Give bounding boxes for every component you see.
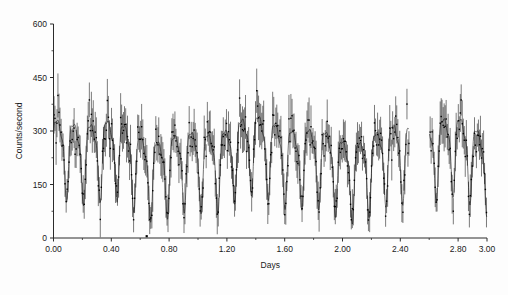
data-point	[256, 90, 257, 91]
data-point	[57, 95, 58, 96]
data-point	[290, 118, 291, 119]
data-point	[390, 133, 391, 134]
data-point	[404, 174, 405, 175]
data-point	[269, 178, 270, 179]
data-point	[282, 169, 283, 170]
data-point	[451, 181, 452, 182]
x-axis-tick-label: 1.60	[276, 244, 293, 254]
data-point	[431, 131, 432, 132]
data-point	[345, 141, 346, 142]
data-point	[301, 208, 302, 209]
data-point	[363, 149, 364, 150]
data-point	[59, 124, 60, 125]
data-point	[309, 144, 310, 145]
data-point	[385, 215, 386, 216]
data-point	[253, 148, 254, 149]
data-point	[405, 144, 406, 145]
axis-lines	[54, 24, 488, 238]
data-point	[350, 204, 351, 205]
data-point	[464, 140, 465, 141]
data-point	[142, 139, 143, 140]
data-point	[103, 148, 104, 149]
data-point	[121, 123, 122, 124]
data-point	[202, 187, 203, 188]
data-point	[380, 133, 381, 134]
data-point	[436, 199, 437, 200]
data-point-outlier	[146, 235, 148, 237]
data-point	[397, 137, 398, 138]
data-point	[395, 115, 396, 116]
data-point	[138, 132, 139, 133]
data-point	[239, 97, 240, 98]
data-point	[369, 211, 370, 212]
data-point	[265, 164, 266, 165]
data-point	[474, 133, 475, 134]
data-point	[196, 152, 197, 153]
data-point	[460, 112, 461, 113]
data-point	[218, 211, 219, 212]
data-point	[64, 183, 65, 184]
data-point	[164, 178, 165, 179]
data-point	[120, 117, 121, 118]
data-point	[155, 129, 156, 130]
data-point	[93, 120, 94, 121]
data-point	[393, 138, 394, 139]
data-point	[205, 156, 206, 157]
data-point	[258, 117, 259, 118]
data-point	[214, 146, 215, 147]
data-point	[429, 131, 430, 132]
data-point	[448, 149, 449, 150]
data-point	[249, 160, 250, 161]
data-point	[358, 146, 359, 147]
data-point	[125, 124, 126, 125]
data-point	[286, 181, 287, 182]
data-point	[147, 182, 148, 183]
data-point	[231, 166, 232, 167]
data-point	[470, 195, 471, 196]
x-axis-tick-label: 3.00	[479, 244, 496, 254]
data-point	[275, 123, 276, 124]
data-point	[56, 123, 57, 124]
y-axis-tick-label: 450	[33, 73, 47, 83]
data-point	[199, 210, 200, 211]
data-point	[192, 146, 193, 147]
data-point	[220, 164, 221, 165]
data-point	[458, 120, 459, 121]
data-point	[160, 154, 161, 155]
data-point	[110, 148, 111, 149]
data-point	[181, 170, 182, 171]
data-point	[434, 187, 435, 188]
data-point	[323, 155, 324, 156]
data-point	[158, 136, 159, 137]
data-point	[226, 123, 227, 124]
data-point	[407, 152, 408, 153]
data-point	[327, 121, 328, 122]
data-point	[169, 170, 170, 171]
data-point	[285, 203, 286, 204]
data-point	[246, 151, 247, 152]
data-point	[455, 151, 456, 152]
data-point	[375, 130, 376, 131]
data-point	[163, 161, 164, 162]
data-point	[224, 145, 225, 146]
data-point	[305, 139, 306, 140]
data-point	[320, 187, 321, 188]
data-point	[245, 116, 246, 117]
data-point	[303, 170, 304, 171]
data-point	[368, 219, 369, 220]
data-point	[187, 152, 188, 153]
data-point	[168, 198, 169, 199]
data-point	[173, 135, 174, 136]
data-point	[223, 136, 224, 137]
data-point	[399, 150, 400, 151]
data-point	[479, 144, 480, 145]
data-point	[288, 118, 289, 119]
data-point	[101, 187, 102, 188]
data-point	[348, 172, 349, 173]
data-point	[315, 161, 316, 162]
data-point	[483, 151, 484, 152]
data-points-group	[53, 69, 487, 238]
data-point	[386, 200, 387, 201]
data-point	[343, 138, 344, 139]
data-point	[115, 183, 116, 184]
